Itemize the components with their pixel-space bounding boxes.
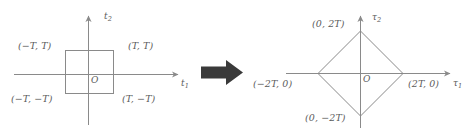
left-origin-label: O <box>91 76 98 85</box>
diamond-vertex-label-left: (−2T, 0) <box>253 79 292 89</box>
transformation-figure: t2 t1 O (−T, T) (T, T) (−T, −T) (T, −T) … <box>0 0 471 134</box>
left-x-axis-label: t1 <box>181 79 189 88</box>
square-vertex-label-top-right: (T, T) <box>128 41 153 51</box>
left-y-axis-label: t2 <box>104 12 112 21</box>
diamond-vertex-label-top: (0, 2T) <box>312 19 345 29</box>
right-origin-label: O <box>363 75 370 84</box>
transformation-arrow-glyph <box>201 60 243 85</box>
left-axes <box>14 16 178 125</box>
square-vertex-label-bottom-left: (−T, −T) <box>11 94 52 104</box>
square-vertex-label-top-left: (−T, T) <box>18 41 51 51</box>
right-x-axis-label: τ1 <box>453 79 462 88</box>
figure-graphics <box>0 0 471 134</box>
diamond-vertex-label-bottom: (0, −2T) <box>305 113 346 123</box>
square-vertex-label-bottom-right: (T, −T) <box>122 94 155 104</box>
diamond-vertex-label-right: (2T, 0) <box>408 79 439 89</box>
square-region-outline <box>66 51 114 94</box>
right-y-axis-label: τ2 <box>372 13 381 22</box>
